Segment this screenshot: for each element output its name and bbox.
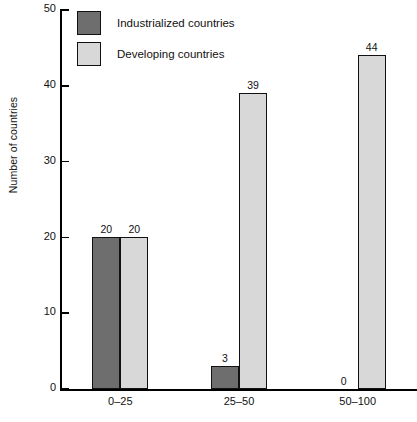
y-axis-tick-label: 10 (44, 305, 56, 317)
y-axis-title: Number of countries (7, 80, 19, 210)
bar-value-label: 20 (128, 223, 140, 235)
bar: 20 (120, 237, 148, 389)
legend-item-industrialized[interactable]: Industrialized countries (77, 7, 235, 38)
x-axis-label: 25–50 (224, 395, 255, 407)
x-axis-label: 0–25 (108, 395, 132, 407)
y-axis-tick-label: 40 (44, 78, 56, 90)
bar-value-label: 3 (222, 352, 228, 364)
dark-swatch-icon (77, 11, 101, 35)
bar: 3 (211, 366, 239, 389)
bar: 44 (358, 55, 386, 389)
x-axis-line (60, 389, 417, 391)
legend-item-label: Developing countries (117, 48, 224, 60)
bar-chart: Number of countries 01020304050 20203390… (0, 0, 417, 422)
chart-legend: Industrialized countries Developing coun… (77, 7, 235, 69)
x-axis-label: 50–100 (339, 395, 376, 407)
y-axis-tick-label: 0 (50, 381, 56, 393)
bar-value-label: 39 (247, 79, 259, 91)
y-axis-tick-label: 20 (44, 230, 56, 242)
bar: 39 (239, 93, 267, 389)
legend-item-label: Industrialized countries (117, 17, 235, 29)
light-swatch-icon (77, 42, 101, 66)
bar-value-label: 44 (366, 41, 378, 53)
bar-value-label: 20 (100, 223, 112, 235)
bar: 20 (92, 237, 120, 389)
legend-item-developing[interactable]: Developing countries (77, 38, 235, 69)
y-axis-tick-label: 50 (44, 2, 56, 14)
y-axis-tick-label: 30 (44, 154, 56, 166)
bar-value-label: 0 (341, 375, 347, 387)
